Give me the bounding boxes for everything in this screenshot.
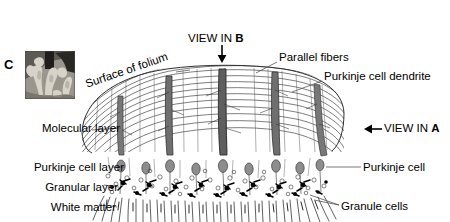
purkinje-cell-dendrite-label: Purkinje cell dendrite (324, 71, 431, 83)
inset-photo-graphic (25, 51, 75, 99)
view-in-a-letter: A (431, 122, 439, 134)
panel-letter-c: C (4, 57, 13, 72)
purkinje-dendrite-trees (117, 69, 327, 156)
view-in-a-label: VIEW IN A (384, 123, 440, 135)
figure-cerebellar-folium: C VIEW IN B VIEW IN A Surface of folium … (0, 0, 450, 222)
molecular-layer-label: Molecular layer (42, 123, 120, 135)
cerebellar-folia-photo-inset (25, 51, 75, 99)
purkinje-dendrite-tree-center (218, 69, 227, 155)
purkinje-cell-label: Purkinje cell (363, 162, 425, 174)
ascending-axons-group (95, 68, 327, 152)
purkinje-dendrite-tree (271, 72, 280, 155)
view-in-b-text: VIEW IN (188, 32, 235, 44)
view-in-a-arrow-icon (364, 125, 382, 134)
purkinje-dendrite-tree (165, 76, 173, 155)
view-in-b-arrow-icon (218, 45, 227, 63)
white-matter-label: White matter (51, 202, 116, 214)
view-in-b-label: VIEW IN B (188, 33, 244, 45)
purkinje-dendrite-tree (314, 84, 327, 156)
purkinje-cell-layer-label: Purkinje cell layer (34, 162, 124, 174)
granular-layer-label: Granular layer (45, 182, 118, 194)
granule-cells-label: Granule cells (341, 201, 408, 213)
view-in-a-text: VIEW IN (384, 122, 431, 134)
view-in-b-letter: B (235, 32, 243, 44)
parallel-fibers-label: Parallel fibers (279, 52, 349, 64)
